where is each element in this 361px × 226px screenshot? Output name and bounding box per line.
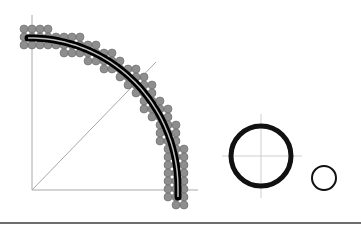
grid-dot: [172, 129, 180, 137]
grid-dot: [180, 169, 188, 177]
grid-dot: [140, 73, 148, 81]
grid-dot: [180, 201, 188, 209]
grid-dot: [44, 25, 52, 33]
grid-dot: [156, 137, 164, 145]
grid-dot: [164, 185, 172, 193]
grid-dot: [28, 41, 36, 49]
grid-dot: [92, 41, 100, 49]
grid-dot: [84, 57, 92, 65]
arc-dot-diagram: [0, 0, 361, 226]
grid-dot: [156, 97, 164, 105]
grid-dot: [172, 121, 180, 129]
grid-dot: [20, 25, 28, 33]
grid-dot: [164, 105, 172, 113]
small-circle: [312, 166, 336, 190]
grid-dot: [148, 81, 156, 89]
grid-dot: [76, 33, 84, 41]
grid-dot: [36, 25, 44, 33]
grid-dot: [180, 145, 188, 153]
large-circle-group: [222, 114, 302, 198]
grid-dot: [164, 161, 172, 169]
grid-dot: [164, 193, 172, 201]
grid-dot: [60, 49, 68, 57]
grid-dot: [180, 153, 188, 161]
grid-dot: [100, 65, 108, 73]
grid-dot: [140, 105, 148, 113]
grid-dot: [164, 177, 172, 185]
grid-dot: [20, 41, 28, 49]
grid-dot: [28, 25, 36, 33]
grid-dot: [172, 201, 180, 209]
grid-dot: [180, 161, 188, 169]
grid-dot: [148, 113, 156, 121]
grid-dot: [68, 49, 76, 57]
grid-dot: [164, 169, 172, 177]
grid-dot: [36, 41, 44, 49]
grid-dot: [132, 65, 140, 73]
grid-dot: [108, 49, 116, 57]
